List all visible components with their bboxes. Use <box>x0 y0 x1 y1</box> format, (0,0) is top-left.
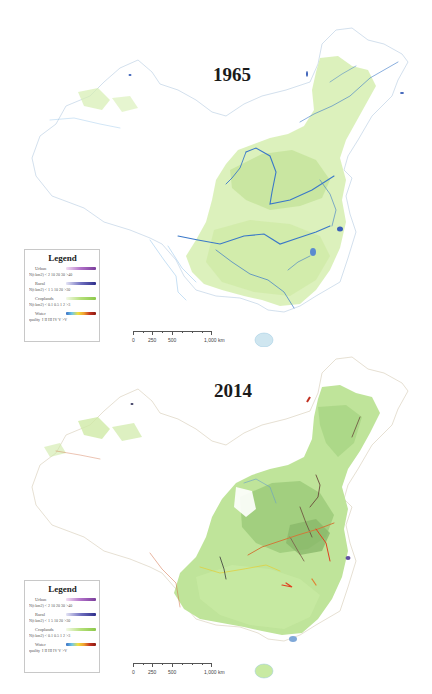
color-ramp <box>66 613 96 616</box>
legend-label: Croplands <box>29 627 54 632</box>
scale-label: 1,000 km <box>204 669 225 675</box>
scale-bar: 0 250 500 1,000 km <box>132 660 242 682</box>
color-ramp <box>66 282 96 285</box>
scale-label: 250 <box>148 669 156 675</box>
legend-label: Croplands <box>29 296 54 301</box>
color-ramp <box>66 598 96 601</box>
color-ramp <box>66 267 96 270</box>
legend-label: Rural <box>29 612 45 617</box>
color-ramp <box>66 643 96 646</box>
legend-ticks: N(t km2) < 0.1 0.5 1 2 >3 <box>29 633 96 638</box>
legend-urban: Urban N(t km2) < 2 10 20 30 >40 <box>29 265 96 277</box>
legend-label: quality <box>29 317 40 322</box>
color-ramp <box>66 628 96 631</box>
water-class-ticks: I II III IV V >V <box>42 317 67 322</box>
legend-ticks: quality I II III IV V >V <box>29 648 96 653</box>
map-legend: Legend Urban N(t km2) < 2 10 20 30 >40 R… <box>24 580 100 673</box>
color-ramp <box>66 312 96 315</box>
scale-label: 1,000 km <box>204 337 225 343</box>
legend-ticks: N(t km2) < 0.1 0.5 1 2 >3 <box>29 302 96 307</box>
legend-ticks: N(t km2) < 2 10 20 30 >40 <box>29 603 96 608</box>
legend-ticks: N(t km2) < 2 10 20 30 >40 <box>29 272 96 277</box>
map-legend: Legend Urban N(t km2) < 2 10 20 30 >40 R… <box>24 249 100 342</box>
legend-label: Rural <box>29 281 45 286</box>
map-title-year: 2014 <box>17 380 432 402</box>
legend-label: quality <box>29 648 40 653</box>
map-panel-2014: 2014 Legend Urban N(t km2) < 2 10 20 30 … <box>0 347 432 694</box>
legend-ticks: N(t km2) < 1 5 10 20 >30 <box>29 618 96 623</box>
scale-label: 0 <box>132 337 135 343</box>
scale-label: 500 <box>168 669 176 675</box>
legend-title: Legend <box>29 584 96 594</box>
legend-label: Urban <box>29 597 46 602</box>
scale-label: 500 <box>168 337 176 343</box>
map-panel-1965: 1965 Legend Urban N(t km2) < 2 10 20 30 … <box>0 0 432 347</box>
scale-label: 250 <box>148 337 156 343</box>
legend-title: Legend <box>29 253 96 263</box>
map-title-year: 1965 <box>16 64 432 86</box>
color-ramp <box>66 297 96 300</box>
legend-urban: Urban N(t km2) < 2 10 20 30 >40 <box>29 596 96 608</box>
legend-label: Water <box>29 311 46 316</box>
legend-croplands: Croplands N(t km2) < 0.1 0.5 1 2 >3 <box>29 626 96 638</box>
hainan-island <box>255 664 273 678</box>
scale-label: 0 <box>132 669 135 675</box>
legend-label: Urban <box>29 266 46 271</box>
legend-croplands: Croplands N(t km2) < 0.1 0.5 1 2 >3 <box>29 295 96 307</box>
hainan-island <box>255 333 273 347</box>
legend-ticks: quality I II III IV V >V <box>29 317 96 322</box>
water-class-ticks: I II III IV V >V <box>42 648 67 653</box>
legend-label: Water <box>29 642 46 647</box>
legend-rural: Rural N(t km2) < 1 5 10 20 >30 <box>29 611 96 623</box>
legend-rural: Rural N(t km2) < 1 5 10 20 >30 <box>29 280 96 292</box>
legend-ticks: N(t km2) < 1 5 10 20 >30 <box>29 287 96 292</box>
legend-water-quality: Water quality I II III IV V >V <box>29 641 96 653</box>
legend-water-quality: Water quality I II III IV V >V <box>29 310 96 322</box>
